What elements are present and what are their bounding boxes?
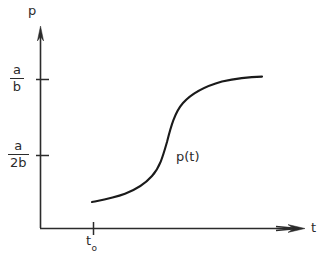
logistic-curve-figure: p t a b a 2b to p(t) [0, 0, 327, 262]
curve-annotation-label: p(t) [176, 150, 200, 163]
x-tick-label-t-zero: to [86, 234, 97, 251]
x-axis-label: t [311, 221, 316, 234]
t-zero-base: t [86, 233, 91, 248]
fraction-numerator: a [12, 139, 24, 154]
logistic-curve-path [92, 77, 262, 202]
fraction-denominator: 2b [8, 155, 29, 170]
fraction-denominator: b [11, 79, 23, 94]
t-zero-subscript: o [92, 243, 98, 253]
y-tick-label-a-over-2b: a 2b [8, 139, 29, 170]
y-tick-label-a-over-b: a b [10, 63, 24, 94]
y-axis-label: p [28, 4, 36, 17]
fraction-numerator: a [11, 63, 23, 78]
plot-canvas [0, 0, 327, 262]
